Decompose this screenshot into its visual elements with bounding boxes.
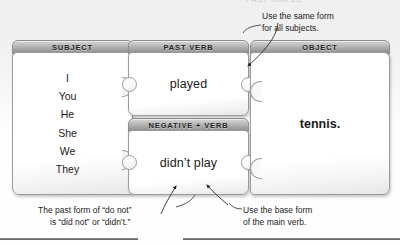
list-item: She xyxy=(58,125,77,141)
card-body-past-verb: played xyxy=(128,52,249,116)
list-item: They xyxy=(56,161,79,177)
puzzle-card-negative-verb[interactable]: NEGATIVE + VERB didn’t play xyxy=(128,118,249,195)
list-item: I xyxy=(66,70,69,86)
card-header-label: NEGATIVE + VERB xyxy=(149,121,229,130)
callout-line-2: of the main verb. xyxy=(243,216,312,228)
clipped-page-heading: PAST SIMPLE xyxy=(246,0,366,5)
list-item: You xyxy=(59,88,77,104)
callout-line-2: is “did not” or “didn’t.” xyxy=(38,216,132,228)
page-rule-left xyxy=(0,238,138,240)
callout-line-1: The past form of “do not” xyxy=(38,205,132,215)
callout-line-1: Use the base form xyxy=(243,205,312,215)
page-rule-right xyxy=(183,238,400,240)
puzzle-card-past-verb[interactable]: PAST VERB played xyxy=(128,40,249,116)
list-item: We xyxy=(60,143,76,159)
past-verb-value: played xyxy=(170,77,207,91)
leader-same-form-tail xyxy=(243,25,261,33)
diagram-canvas: PAST SIMPLE SUBJECT I You He She We They xyxy=(0,0,400,244)
object-value: tennis. xyxy=(300,117,340,131)
leader-base-form-tail xyxy=(229,203,242,209)
negative-verb-value: didn’t play xyxy=(160,156,217,170)
leader-past-form-tail xyxy=(176,195,195,207)
card-body-subject: I You He She We They xyxy=(12,52,133,195)
callout-line-2: for all subjects. xyxy=(262,22,334,34)
puzzle-card-object[interactable]: OBJECT tennis. xyxy=(250,40,390,195)
puzzle-card-subject[interactable]: SUBJECT I You He She We They xyxy=(12,40,133,195)
puzzle-socket-left xyxy=(122,77,137,92)
callout-use-base-form: Use the base form of the main verb. xyxy=(243,204,312,228)
callout-line-1: Use the same form xyxy=(262,11,334,21)
puzzle-socket-left xyxy=(122,155,137,170)
callout-use-same-form: Use the same form for all subjects. xyxy=(262,10,334,34)
list-item: He xyxy=(61,106,74,122)
card-body-negative-verb: didn’t play xyxy=(128,130,249,195)
subject-pronoun-list: I You He She We They xyxy=(56,70,89,178)
card-header-label: PAST VERB xyxy=(163,43,213,52)
callout-past-form-of-do-not: The past form of “do not” is “did not” o… xyxy=(38,204,132,228)
card-body-object: tennis. xyxy=(250,52,390,195)
card-header-label: SUBJECT xyxy=(52,43,93,52)
card-header-label: OBJECT xyxy=(302,43,338,52)
